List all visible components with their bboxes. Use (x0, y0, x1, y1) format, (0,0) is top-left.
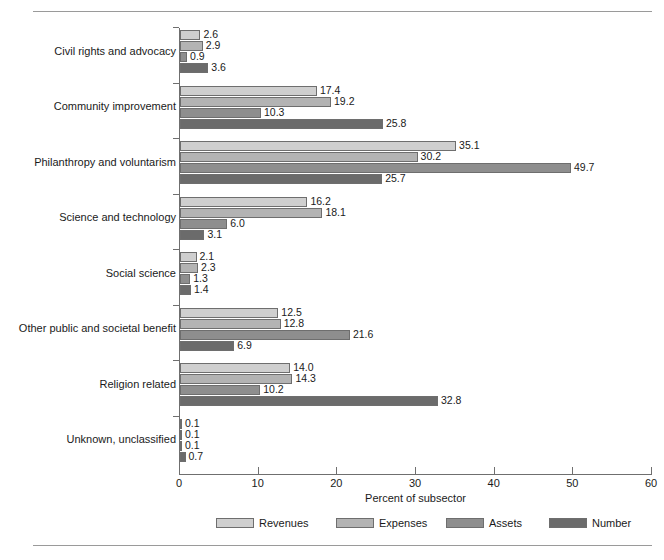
bar[interactable] (180, 385, 260, 395)
bar[interactable] (180, 119, 383, 129)
bar-row: 6.9 (180, 341, 652, 351)
bar-row: 14.0 (180, 363, 652, 373)
bar[interactable] (180, 163, 571, 173)
bar[interactable] (180, 341, 234, 351)
bar-group: Social science2.12.31.31.4 (0, 252, 664, 295)
bar-row: 2.1 (180, 252, 652, 262)
x-tick-label: 60 (645, 477, 657, 489)
bar[interactable] (180, 330, 350, 340)
bar-row: 2.3 (180, 263, 652, 273)
y-tick-mark (173, 305, 179, 306)
bar-value-label: 6.9 (234, 339, 252, 352)
bar-value-label: 10.2 (260, 383, 283, 396)
category-label: Unknown, unclassified (0, 433, 176, 445)
legend-swatch (446, 518, 484, 528)
bar-row: 0.1 (180, 430, 652, 440)
x-tick-mark (336, 467, 337, 474)
legend-item[interactable]: Assets (446, 516, 522, 530)
bar[interactable] (180, 141, 456, 151)
bar-value-label: 30.2 (418, 150, 441, 163)
bar-row: 25.8 (180, 119, 652, 129)
bar-row: 3.1 (180, 230, 652, 240)
bar[interactable] (180, 197, 307, 207)
legend-item[interactable]: Expenses (336, 516, 427, 530)
bar[interactable] (180, 108, 261, 118)
bar-group: Philanthropy and voluntarism35.130.249.7… (0, 141, 664, 184)
x-tick-label: 10 (252, 477, 264, 489)
x-tick-mark (572, 467, 573, 474)
bar-value-label: 25.8 (383, 117, 406, 130)
bar-row: 1.3 (180, 274, 652, 284)
chart-legend: RevenuesExpensesAssetsNumber (0, 516, 664, 532)
bar[interactable] (180, 230, 204, 240)
legend-swatch (216, 518, 254, 528)
bar-row: 0.9 (180, 52, 652, 62)
legend-item[interactable]: Number (549, 516, 631, 530)
category-label: Civil rights and advocacy (0, 45, 176, 57)
bar-value-label: 25.7 (382, 172, 405, 185)
bar-value-label: 19.2 (331, 95, 354, 108)
bar[interactable] (180, 252, 197, 262)
y-tick-mark (173, 27, 179, 28)
y-tick-mark (173, 138, 179, 139)
bar-row: 1.4 (180, 285, 652, 295)
y-tick-mark (173, 194, 179, 195)
bar-value-label: 35.1 (456, 139, 479, 152)
bar[interactable] (180, 30, 200, 40)
bar[interactable] (180, 319, 281, 329)
category-label: Philanthropy and voluntarism (0, 156, 176, 168)
bar[interactable] (180, 97, 331, 107)
bar-row: 10.3 (180, 108, 652, 118)
bar-group: Unknown, unclassified0.10.10.10.7 (0, 419, 664, 462)
bar-value-label: 10.3 (261, 106, 284, 119)
figure: 0102030405060 Civil rights and advocacy2… (0, 0, 664, 560)
bar[interactable] (180, 208, 322, 218)
bar-row: 14.3 (180, 374, 652, 384)
bar-row: 49.7 (180, 163, 652, 173)
x-tick-mark (494, 467, 495, 474)
y-tick-mark (173, 249, 179, 250)
x-tick-label: 30 (409, 477, 421, 489)
legend-item[interactable]: Revenues (216, 516, 309, 530)
bar-row: 2.6 (180, 30, 652, 40)
x-tick-mark (179, 467, 180, 474)
bar-value-label: 32.8 (438, 394, 461, 407)
bar-group: Civil rights and advocacy2.62.90.93.6 (0, 30, 664, 73)
bar-value-label: 6.0 (227, 217, 245, 230)
legend-swatch (549, 518, 587, 528)
bar[interactable] (180, 63, 208, 73)
bar[interactable] (180, 363, 290, 373)
bar-value-label: 3.6 (208, 61, 226, 74)
legend-label: Expenses (379, 517, 427, 529)
bar[interactable] (180, 396, 438, 406)
bar-value-label: 1.4 (191, 283, 209, 296)
x-tick-mark (258, 467, 259, 474)
bar-row: 0.1 (180, 419, 652, 429)
bar-row: 17.4 (180, 86, 652, 96)
bar-row: 35.1 (180, 141, 652, 151)
category-label: Other public and societal benefit (0, 322, 176, 334)
x-axis-line (179, 474, 652, 475)
bar[interactable] (180, 86, 317, 96)
x-tick-mark (415, 467, 416, 474)
bar-row: 6.0 (180, 219, 652, 229)
bar-row: 2.9 (180, 41, 652, 51)
bar[interactable] (180, 152, 418, 162)
bar[interactable] (180, 174, 382, 184)
legend-label: Assets (489, 517, 522, 529)
category-label: Religion related (0, 378, 176, 390)
bar-row: 12.5 (180, 308, 652, 318)
bar[interactable] (180, 285, 191, 295)
legend-label: Revenues (259, 517, 309, 529)
legend-swatch (336, 518, 374, 528)
x-tick-label: 0 (176, 477, 182, 489)
bar-value-label: 0.9 (187, 50, 205, 63)
bar[interactable] (180, 274, 190, 284)
x-tick-label: 50 (566, 477, 578, 489)
category-label: Community improvement (0, 100, 176, 112)
y-tick-mark (173, 360, 179, 361)
bar-row: 10.2 (180, 385, 652, 395)
bar[interactable] (180, 308, 278, 318)
y-tick-mark (173, 83, 179, 84)
bar[interactable] (180, 52, 187, 62)
